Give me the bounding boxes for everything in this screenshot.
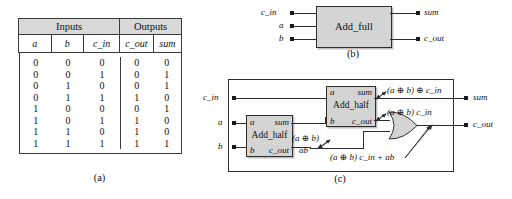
table-cell: 1 <box>120 126 153 138</box>
annotation-xor-ab: (a ⊕ b) <box>292 133 319 143</box>
panel-c-output-label-c-out: c_out <box>473 119 493 129</box>
table-cell: 0 <box>120 69 153 81</box>
add-full-block: Add_full <box>316 6 392 48</box>
wire-or-to-cout <box>417 125 452 126</box>
ha1-port-a: a <box>250 117 255 127</box>
wire-ha1sum-h <box>291 123 326 124</box>
table-cell: 1 <box>153 80 181 92</box>
panel-b-output-label-c-out: c_out <box>424 33 444 43</box>
full-adder-figure: Inputs Outputs a b c_in c_out sum 000000… <box>0 0 512 199</box>
table-cell: 1 <box>84 69 120 81</box>
panel-b-wire-a <box>294 26 316 27</box>
table-cell: 0 <box>19 57 52 69</box>
annotation-and-ab: ab <box>299 145 308 155</box>
table-cell: 1 <box>84 138 120 150</box>
table-cell: 1 <box>84 92 120 104</box>
caption-b: (b) <box>316 48 390 59</box>
panel-b-wire-c-in <box>294 13 316 14</box>
truth-table: Inputs Outputs a b c_in c_out sum 000000… <box>18 18 182 154</box>
panel-b-wire-sum <box>390 13 416 14</box>
ha2-port-b: b <box>330 116 335 126</box>
wire-ha2sum-to-out <box>374 98 452 99</box>
truth-table-body: 0000000101010010111010001101101101011111 <box>19 53 182 155</box>
ha1-port-c-out: c_out <box>269 145 289 155</box>
table-cell: 1 <box>52 126 84 138</box>
table-row: 01110 <box>19 92 181 104</box>
annotation-sum-expr: (a ⊕ b) ⊕ c_in <box>387 85 442 95</box>
panel-b-input-label-a: a <box>279 20 284 30</box>
panel-b-pin-c-out <box>416 37 420 41</box>
table-cell: 0 <box>120 57 153 69</box>
caption-a: (a) <box>18 172 181 183</box>
table-cell: 1 <box>52 92 84 104</box>
wire-ab-to-or <box>363 131 390 132</box>
table-cell: 0 <box>52 69 84 81</box>
table-cell: 0 <box>52 103 84 115</box>
column-header-c-in: c_in <box>84 35 120 53</box>
group-header-inputs: Inputs <box>19 19 120 35</box>
table-cell: 1 <box>19 103 52 115</box>
panel-a-truth-table: Inputs Outputs a b c_in c_out sum 000000… <box>18 18 181 154</box>
truth-table-values: 0000000101010010111010001101101101011111 <box>19 53 182 154</box>
panel-b-wire-c-out <box>390 39 416 40</box>
table-cell: 1 <box>52 138 84 150</box>
wire-ab-v2 <box>363 131 364 149</box>
table-row: 00000 <box>19 57 181 69</box>
column-header-c-out: c_out <box>120 35 153 53</box>
table-cell: 1 <box>153 103 181 115</box>
table-cell: 0 <box>153 115 181 127</box>
ha2-port-c-out: c_out <box>352 116 372 126</box>
panel-b-input-label-b: b <box>279 33 284 43</box>
table-row: 01001 <box>19 80 181 92</box>
group-header-outputs: Outputs <box>120 19 182 35</box>
table-cell: 0 <box>19 69 52 81</box>
table-cell: 0 <box>153 92 181 104</box>
table-cell: 0 <box>19 92 52 104</box>
table-cell: 0 <box>19 80 52 92</box>
table-row: 11111 <box>19 138 181 150</box>
annotation-cout-expr: (a ⊕ b) c_in + ab <box>330 152 394 162</box>
add-half-block-2-label: Add_half <box>327 100 375 110</box>
wire-c-in-to-ha2 <box>236 98 326 99</box>
panel-c-pin-c-out <box>464 123 468 127</box>
table-cell: 1 <box>19 126 52 138</box>
ha1-port-b: b <box>250 145 255 155</box>
table-cell: 1 <box>153 69 181 81</box>
panel-b-pin-sum <box>416 11 420 15</box>
panel-c-input-label-c-in: c_in <box>203 92 219 102</box>
caption-c: (c) <box>300 173 380 184</box>
table-cell: 0 <box>120 103 153 115</box>
wire-ha2cout-to-or <box>374 120 390 121</box>
table-row: 10001 <box>19 103 181 115</box>
ha2-port-a: a <box>330 87 335 97</box>
column-header-a: a <box>19 35 52 53</box>
panel-c-input-label-a: a <box>218 117 223 127</box>
table-cell: 1 <box>19 138 52 150</box>
table-cell: 0 <box>84 57 120 69</box>
table-cell: 1 <box>120 115 153 127</box>
panel-c-input-label-b: b <box>218 141 223 151</box>
add-half-block-1-label: Add_half <box>247 130 292 140</box>
ha2-port-sum: sum <box>357 87 372 97</box>
table-column-header-row: a b c_in c_out sum <box>19 35 182 53</box>
ha1-port-sum: sum <box>274 117 289 127</box>
panel-b-output-label-sum: sum <box>424 7 439 17</box>
add-full-block-label: Add_full <box>317 21 391 32</box>
table-cell: 1 <box>52 80 84 92</box>
wire-ab-h2 <box>310 148 364 149</box>
wire-b-to-ha1 <box>236 147 246 148</box>
table-cell: 0 <box>52 57 84 69</box>
panel-b-wire-b <box>294 39 316 40</box>
table-cell: 1 <box>120 138 153 150</box>
table-cell: 1 <box>19 115 52 127</box>
table-cell: 0 <box>120 80 153 92</box>
annotation-carry-term: (a ⊕ b) c_in <box>387 107 432 117</box>
table-cell: 0 <box>84 126 120 138</box>
column-header-sum: sum <box>153 35 181 53</box>
table-cell: 0 <box>84 103 120 115</box>
table-cell: 0 <box>153 57 181 69</box>
table-cell: 0 <box>153 126 181 138</box>
table-cell: 1 <box>84 115 120 127</box>
table-row: 10110 <box>19 115 181 127</box>
table-cell: 1 <box>153 138 181 150</box>
